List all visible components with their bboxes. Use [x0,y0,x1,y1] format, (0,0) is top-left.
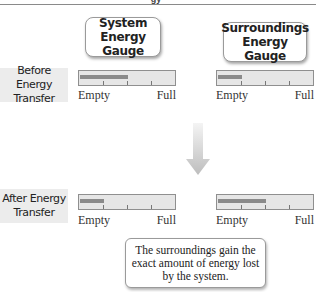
gauge-fill [80,199,104,203]
gauge-scale-labels: Empty Full [78,88,176,102]
conclusion-note-text: The surroundings gain the exact amount o… [130,244,261,283]
surroundings-gauge-header-label: Surroundings Energy Gauge [221,21,309,63]
empty-label: Empty [216,213,248,228]
gauge-tick [127,205,128,209]
gauge-scale-labels: Empty Full [216,213,314,227]
gauge-tick [241,81,242,85]
gauge-before-system [78,70,176,86]
gauge-before-surroundings [216,70,314,86]
row-label-before: Before Energy Transfer [0,68,68,102]
gauge-tick [103,81,104,85]
row-label-before-text: Before Energy Transfer [0,64,68,106]
gauge-tick [103,205,104,209]
title-fragment: gy [148,0,164,2]
gauge-tick [151,205,152,209]
gauge-tick [289,205,290,209]
row-label-after: After Energy Transfer [0,189,68,223]
full-label: Full [157,88,176,103]
gauge-tick [127,81,128,85]
row-label-after-text: After Energy Transfer [0,192,68,220]
full-label: Full [295,213,314,228]
full-label: Full [295,88,314,103]
system-gauge-header-label: System Energy Gauge [86,16,160,58]
conclusion-note: The surroundings gain the exact amount o… [125,238,266,288]
empty-label: Empty [78,88,110,103]
empty-label: Empty [216,88,248,103]
gauge-tick [241,205,242,209]
gauge-scale-labels: Empty Full [78,213,176,227]
gauge-fill [80,75,128,79]
top-divider [0,4,316,5]
empty-label: Empty [78,213,110,228]
gauge-fill [218,199,266,203]
system-gauge-header: System Energy Gauge [85,17,161,57]
gauge-tick [265,205,266,209]
gauge-scale-labels: Empty Full [216,88,314,102]
gauge-fill [218,75,242,79]
down-arrow-icon [186,123,210,175]
gauge-tick [289,81,290,85]
gauge-tick [265,81,266,85]
full-label: Full [157,213,176,228]
gauge-after-system [78,194,176,210]
surroundings-gauge-header: Surroundings Energy Gauge [223,22,307,62]
gauge-tick [151,81,152,85]
gauge-after-surroundings [216,194,314,210]
